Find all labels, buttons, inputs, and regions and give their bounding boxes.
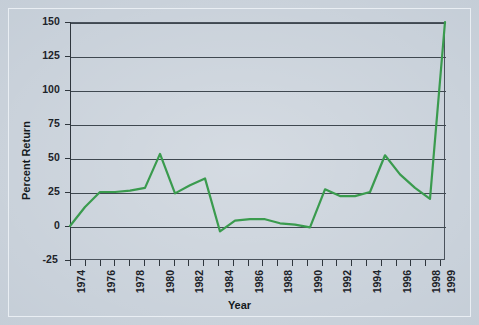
x-tick-1975 <box>85 260 86 266</box>
y-tick-label-50: 50 <box>20 151 60 163</box>
x-tick-1998 <box>425 260 426 266</box>
x-tick-label-1992: 1992 <box>341 270 353 293</box>
y-tick-label-neg25: -25 <box>18 253 58 265</box>
x-tick-1985 <box>233 260 234 266</box>
x-tick-1996 <box>396 260 397 266</box>
x-tick-1989 <box>292 260 293 266</box>
x-tick-1997 <box>410 260 411 266</box>
y-axis-line <box>70 22 71 260</box>
plot-area <box>70 22 445 260</box>
x-tick-1976 <box>100 260 101 266</box>
x-tick-label-1998: 1998 <box>430 270 442 293</box>
y-tick-25 <box>65 192 70 193</box>
x-tick-1983 <box>203 260 204 266</box>
y-tick-label-0: 0 <box>20 219 60 231</box>
y-tick-0 <box>65 226 70 227</box>
x-tick-1977 <box>114 260 115 266</box>
x-tick-1988 <box>277 260 278 266</box>
x-tick-label-1999: 1999 <box>445 270 457 293</box>
x-tick-1978 <box>129 260 130 266</box>
x-tick-1992 <box>336 260 337 266</box>
y-tick-label-75: 75 <box>20 117 60 129</box>
x-tick-label-1990: 1990 <box>312 270 324 293</box>
x-tick-label-1986: 1986 <box>253 270 265 293</box>
x-tick-label-1982: 1982 <box>193 270 205 293</box>
y-tick-75 <box>65 124 70 125</box>
x-tick-label-1996: 1996 <box>401 270 413 293</box>
x-tick-label-1980: 1980 <box>164 270 176 293</box>
x-tick-label-1976: 1976 <box>105 270 117 293</box>
gridline-50 <box>71 159 446 160</box>
x-tick-1999 <box>440 260 441 266</box>
x-tick-1981 <box>174 260 175 266</box>
x-tick-1987 <box>262 260 263 266</box>
y-tick-150 <box>65 22 70 23</box>
x-tick-1994 <box>366 260 367 266</box>
x-tick-1984 <box>218 260 219 266</box>
x-tick-1979 <box>144 260 145 266</box>
x-tick-1995 <box>381 260 382 266</box>
y-tick-125 <box>65 56 70 57</box>
x-tick-label-1984: 1984 <box>223 270 235 293</box>
x-tick-1982 <box>188 260 189 266</box>
x-axis-title: Year <box>0 299 479 311</box>
gridline-150 <box>71 23 446 24</box>
y-tick-50 <box>65 158 70 159</box>
gridline-0 <box>71 227 446 228</box>
x-tick-label-1988: 1988 <box>282 270 294 293</box>
y-tick-label-150: 150 <box>20 15 60 27</box>
y-tick-label-125: 125 <box>20 49 60 61</box>
x-tick-label-1978: 1978 <box>134 270 146 293</box>
x-tick-1990 <box>307 260 308 266</box>
gridline-100 <box>71 91 446 92</box>
chart-figure: Percent Return 150 125 100 75 50 25 0 -2… <box>0 0 479 325</box>
x-tick-1980 <box>159 260 160 266</box>
gridline-25 <box>71 193 446 194</box>
x-tick-1993 <box>351 260 352 266</box>
x-tick-1991 <box>322 260 323 266</box>
x-tick-label-1974: 1974 <box>75 270 87 293</box>
y-tick-label-100: 100 <box>20 83 60 95</box>
gridline-125 <box>71 57 446 58</box>
gridline-75 <box>71 125 446 126</box>
x-tick-label-1994: 1994 <box>371 270 383 293</box>
y-tick-100 <box>65 90 70 91</box>
y-tick-label-25: 25 <box>20 185 60 197</box>
x-tick-1974 <box>70 260 71 266</box>
x-tick-1986 <box>248 260 249 266</box>
